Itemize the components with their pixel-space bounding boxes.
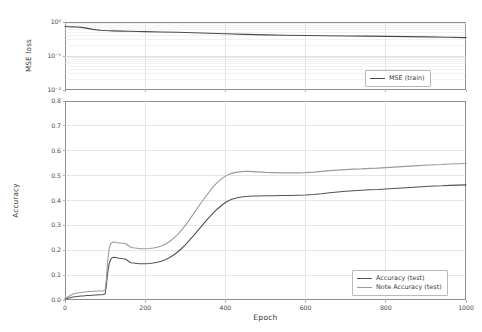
accuracy-ytick-3: 0.3 [51, 221, 61, 228]
accuracy-y-axis-label: Accuracy [11, 155, 20, 245]
accuracy-ytick-7: 0.7 [51, 122, 61, 129]
accuracy-xtick-5: 1000 [446, 304, 482, 311]
accuracy-ytick-1: 0.1 [51, 271, 61, 278]
accuracy-legend: Accuracy (test) Note Accuracy (test) [352, 270, 448, 296]
accuracy-xtick-4: 800 [366, 304, 406, 311]
mse-ytick-1: 10⁻¹ [47, 52, 61, 59]
accuracy-ytick-6: 0.6 [51, 147, 61, 154]
legend-item-note-accuracy-test: Note Accuracy (test) [357, 283, 442, 292]
accuracy-ytick-5: 0.5 [51, 172, 61, 179]
accuracy-ytick-4: 0.4 [51, 197, 61, 204]
legend-label-accuracy-test: Accuracy (test) [376, 274, 424, 283]
accuracy-x-axis-label: Epoch [226, 313, 306, 322]
mse-ytick-0: 10⁰ [51, 18, 61, 25]
legend-swatch-accuracy-test [357, 278, 372, 279]
accuracy-xtick-1: 200 [125, 304, 165, 311]
legend-label-note-accuracy-test: Note Accuracy (test) [376, 283, 442, 292]
accuracy-xtick-0: 0 [45, 304, 85, 311]
accuracy-ytick-2: 0.2 [51, 246, 61, 253]
accuracy-ytick-0: 0.0 [51, 296, 61, 303]
accuracy-xtick-3: 600 [286, 304, 326, 311]
mse-ytick-2: 10⁻² [47, 86, 61, 93]
legend-swatch-note-accuracy-test [357, 287, 372, 288]
accuracy-ytick-8: 0.8 [51, 97, 61, 104]
accuracy-xtick-2: 400 [205, 304, 245, 311]
figure-canvas: MSE loss MSE (train) Accuracy Epoch Accu… [0, 0, 482, 332]
legend-item-accuracy-test: Accuracy (test) [357, 274, 442, 283]
